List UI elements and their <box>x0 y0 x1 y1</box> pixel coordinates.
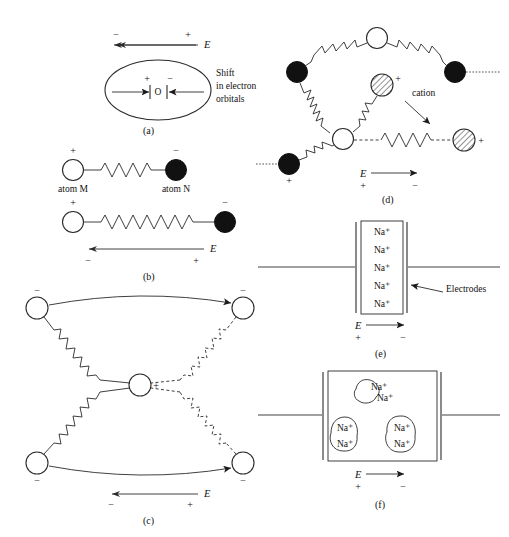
cation-pointer-arrow <box>405 101 430 124</box>
panel-e-efield-right-sign: − <box>400 332 406 343</box>
panel-e-efield: E + − <box>354 320 406 343</box>
network-anion-lower-left-sign: + <box>286 175 292 186</box>
na-ion-1: Na⁺ <box>374 227 390 237</box>
anion-bottom-left <box>26 452 48 474</box>
panel-a-caption: (a) <box>143 125 154 137</box>
spring-stretched <box>101 215 193 229</box>
spring-apex-to-upper-left <box>305 40 367 66</box>
shift-annotation: Shift in electron orbitals <box>216 68 257 104</box>
panel-a-efield-right-sign: + <box>185 29 191 40</box>
atom-n-label: atom N <box>162 184 190 194</box>
panel-d: + + + cation <box>256 28 500 207</box>
panel-f-efield-left-sign: + <box>355 481 361 492</box>
cluster-br-ion-2: Na⁺ <box>394 439 410 449</box>
cluster-top-ion-2: Na⁺ <box>377 393 393 403</box>
panel-b-efield-label: E <box>209 243 217 254</box>
shift-annotation-line2: in electron <box>216 81 257 91</box>
ion-cluster-top-center: Na⁺ Na⁺ <box>354 380 393 404</box>
network-node-apex <box>367 28 388 49</box>
panel-b-caption: (b) <box>143 271 155 283</box>
panel-a-inner-left-sign: + <box>144 73 150 84</box>
anion-top-right-sign: − <box>240 285 246 296</box>
atom-n-circle-stretched <box>215 212 236 233</box>
panel-a-efield-left-sign: − <box>113 29 119 40</box>
panel-b-row1: + atom M − atom N <box>58 145 190 194</box>
bottom-curved-arrow <box>49 466 231 475</box>
na-ion-3: Na⁺ <box>374 263 390 273</box>
panel-f-efield: E + − <box>354 469 406 492</box>
spring-lowerleft-to-centre <box>299 142 334 160</box>
panel-e-caption: (e) <box>375 348 386 360</box>
cluster-top-ion-1: Na⁺ <box>371 382 387 392</box>
spring-top-left <box>44 317 130 383</box>
panel-d-caption: (d) <box>382 194 394 206</box>
panel-b-efield-left-sign: − <box>85 255 91 266</box>
spring-bottom-right-dashed <box>151 388 236 454</box>
spring-top-right-dashed <box>151 317 236 383</box>
cation-bonded-sign: + <box>395 73 401 84</box>
cation-label: cation <box>412 88 435 98</box>
network-anion-upper-left <box>287 62 308 83</box>
network-node-centre <box>333 129 354 150</box>
panel-e: Na⁺ Na⁺ Na⁺ Na⁺ Na⁺ Electrodes E + − (e) <box>258 221 500 360</box>
top-curved-arrow <box>49 296 231 305</box>
panel-d-efield-left-sign: + <box>360 180 366 191</box>
panel-b-row2: + − − + E <box>63 197 236 266</box>
electrodes-label: Electrodes <box>446 284 486 294</box>
panel-d-efield-right-sign: − <box>412 180 418 191</box>
panel-d-efield: E + − <box>359 168 418 191</box>
network-anion-upper-right <box>445 62 466 83</box>
dashed-hop-path <box>354 133 452 147</box>
anion-top-right <box>232 297 254 319</box>
panel-a-inner-right-sign: − <box>167 73 173 84</box>
panel-a-efield-label: E <box>203 39 211 50</box>
atom-m-label: atom M <box>58 184 88 194</box>
electrodes-pointer-arrow <box>411 285 443 292</box>
panel-f-caption: (f) <box>375 499 385 511</box>
atom-n-circle <box>166 160 187 181</box>
na-ion-5: Na⁺ <box>374 299 390 309</box>
panel-f: Na⁺ Na⁺ Na⁺ Na⁺ Na⁺ Na⁺ E + − (f) <box>258 371 500 511</box>
cation-bonded <box>371 74 393 96</box>
atom-m-circle <box>63 160 84 181</box>
shift-annotation-line3: orbitals <box>216 94 245 104</box>
anion-bottom-right-sign: − <box>240 475 246 486</box>
ion-cluster-bottom-left: Na⁺ Na⁺ <box>330 417 357 451</box>
shift-annotation-line1: Shift <box>216 68 235 78</box>
panel-e-efield-label: E <box>354 320 362 331</box>
panel-b-efield-right-sign: + <box>193 255 199 266</box>
spring-relaxed <box>101 163 151 177</box>
cation-displaced <box>453 129 475 151</box>
panel-a-efield: − + E <box>113 29 211 50</box>
panel-e-efield-left-sign: + <box>355 332 361 343</box>
panel-a: − + E O + − Shift in electron orbitals (… <box>105 29 257 137</box>
na-ion-4: Na⁺ <box>374 281 390 291</box>
atom-n-sign-stretched: − <box>222 197 228 208</box>
anion-top-left <box>26 297 48 319</box>
atom-m-sign-stretched: + <box>70 197 76 208</box>
panel-c-efield-label: E <box>203 488 211 499</box>
panel-f-efield-label: E <box>354 469 362 480</box>
panel-c-caption: (c) <box>143 515 154 527</box>
panel-c-efield: − + E <box>108 488 211 510</box>
atom-n-sign: − <box>173 145 179 156</box>
cation-displaced-sign: + <box>478 135 484 146</box>
cluster-br-ion-1: Na⁺ <box>394 423 410 433</box>
atom-m-sign: + <box>70 145 76 156</box>
cluster-bl-ion-1: Na⁺ <box>337 423 353 433</box>
anion-bottom-left-sign: − <box>34 475 40 486</box>
ion-cluster-bottom-right: Na⁺ Na⁺ <box>386 416 416 452</box>
network-anion-lower-left <box>279 154 300 175</box>
na-ion-2: Na⁺ <box>374 245 390 255</box>
panel-b: + atom M − atom N + − − + E (b) <box>58 145 235 283</box>
cluster-bl-ion-2: Na⁺ <box>337 439 353 449</box>
spring-bottom-left <box>44 388 130 454</box>
anion-top-left-sign: − <box>34 285 40 296</box>
panel-f-efield-right-sign: − <box>400 481 406 492</box>
panel-d-efield-label: E <box>359 168 367 179</box>
figure-canvas: − + E O + − Shift in electron orbitals (… <box>0 0 509 537</box>
spring-upperleft-to-centre <box>300 83 330 133</box>
spring-apex-to-upper-right <box>387 40 447 66</box>
panel-c: − − − − + <box>26 285 254 527</box>
panel-c-efield-left-sign: − <box>108 499 114 510</box>
